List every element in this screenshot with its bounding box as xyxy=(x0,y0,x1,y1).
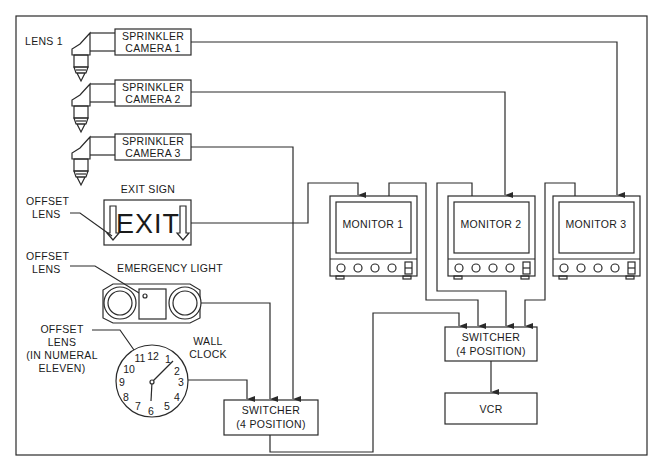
svg-text:4: 4 xyxy=(174,391,180,403)
sprinkler-camera-1: SPRINKLER CAMERA 1 LENS 1 xyxy=(25,29,191,81)
monitor-1-label: MONITOR 1 xyxy=(343,218,404,230)
clock-lens-label-3: (IN NUMERAL xyxy=(26,349,98,361)
svg-text:3: 3 xyxy=(178,376,184,388)
sprinkler-camera-3: SPRINKLER CAMERA 3 xyxy=(72,134,191,185)
svg-text:11: 11 xyxy=(135,352,146,364)
emergency-light-title: EMERGENCY LIGHT xyxy=(117,262,223,274)
camera-2-label-line1: SPRINKLER xyxy=(122,81,184,93)
clock-lens-label-1: OFFSET xyxy=(40,323,84,335)
exit-sign-text: EXIT xyxy=(116,209,180,239)
sprinkler-head-icon xyxy=(72,137,115,185)
sprinkler-head-icon xyxy=(72,84,115,132)
camera-2-label-line2: CAMERA 2 xyxy=(125,93,181,105)
svg-text:12: 12 xyxy=(147,350,159,362)
svg-text:9: 9 xyxy=(119,376,125,388)
switcher-left: SWITCHER (4 POSITION) xyxy=(224,400,318,435)
surveillance-diagram: SPRINKLER CAMERA 1 LENS 1 SPRINKLER CAME… xyxy=(0,0,660,472)
svg-text:10: 10 xyxy=(123,363,135,375)
svg-text:8: 8 xyxy=(123,391,129,403)
emergency-light: EMERGENCY LIGHT OFFSET LENS xyxy=(26,250,223,323)
svg-text:(4 POSITION): (4 POSITION) xyxy=(456,345,526,357)
sprinkler-head-icon xyxy=(72,33,115,81)
exit-offset-lens-label-1: OFFSET xyxy=(26,195,70,207)
vcr: VCR xyxy=(445,393,537,424)
camera-3-label-line1: SPRINKLER xyxy=(122,135,184,147)
camera-3-label-line2: CAMERA 3 xyxy=(125,147,181,159)
clock-lens-label-4: ELEVEN) xyxy=(38,362,85,374)
emergency-offset-lens-label-1: OFFSET xyxy=(26,250,70,262)
clock-title-1: WALL xyxy=(193,335,222,347)
svg-text:7: 7 xyxy=(135,400,141,412)
svg-text:SWITCHER: SWITCHER xyxy=(242,404,301,416)
leader-line xyxy=(92,330,134,350)
svg-text:6: 6 xyxy=(148,405,154,417)
camera-1-label-line2: CAMERA 1 xyxy=(125,42,181,54)
sprinkler-camera-2: SPRINKLER CAMERA 2 xyxy=(72,80,191,132)
monitor-2: MONITOR 2 xyxy=(448,196,535,279)
monitor-1: MONITOR 1 xyxy=(330,196,417,279)
emergency-offset-lens-label-2: LENS xyxy=(32,263,61,275)
monitor-3-label: MONITOR 3 xyxy=(566,218,627,230)
exit-offset-lens-label-2: LENS xyxy=(32,208,61,220)
svg-text:VCR: VCR xyxy=(479,403,502,415)
camera-1-label-line1: SPRINKLER xyxy=(122,30,184,42)
wall-clock: WALL CLOCK OFFSET LENS (IN NUMERAL ELEVE… xyxy=(26,323,227,417)
clock-title-2: CLOCK xyxy=(189,348,227,360)
monitor-3: MONITOR 3 xyxy=(553,196,640,279)
monitor-2-label: MONITOR 2 xyxy=(461,218,522,230)
svg-text:5: 5 xyxy=(164,400,170,412)
switcher-right: SWITCHER (4 POSITION) xyxy=(445,327,537,361)
clock-lens-label-2: LENS xyxy=(48,336,77,348)
lens-1-label: LENS 1 xyxy=(25,35,63,47)
svg-text:SWITCHER: SWITCHER xyxy=(462,331,521,343)
exit-sign: EXIT SIGN EXIT OFFSET LENS xyxy=(26,183,191,245)
svg-text:(4 POSITION): (4 POSITION) xyxy=(236,418,306,430)
exit-sign-title: EXIT SIGN xyxy=(121,183,175,195)
